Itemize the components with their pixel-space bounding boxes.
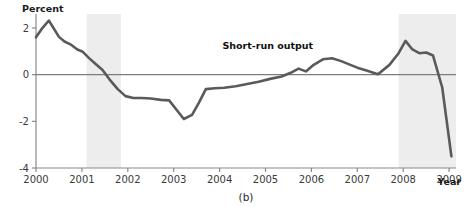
recession-band-2008 <box>399 14 456 168</box>
x-tick-label: 2006 <box>299 174 324 185</box>
x-tick-label: 2005 <box>253 174 278 185</box>
x-tick-label: 2002 <box>115 174 140 185</box>
panel-caption: (b) <box>239 191 254 203</box>
x-tick-label: 2007 <box>345 174 370 185</box>
y-axis-title: Percent <box>22 3 64 14</box>
series-inline-label: Short-run output <box>222 40 313 51</box>
y-tick-label: -2 <box>19 116 29 127</box>
y-tick-label: 0 <box>23 69 29 80</box>
x-tick-label: 2004 <box>207 174 232 185</box>
short-run-output-line-chart: 20-2-42000200120022003200420052006200720… <box>0 0 464 206</box>
shaded-bands-layer <box>86 14 456 168</box>
x-tick-label: 2000 <box>23 174 48 185</box>
y-tick-label: 2 <box>23 23 29 34</box>
x-axis-title: Year <box>436 176 461 187</box>
x-tick-label: 2008 <box>390 174 415 185</box>
recession-band-2001 <box>86 14 120 168</box>
chart-figure: 20-2-42000200120022003200420052006200720… <box>0 0 464 206</box>
x-tick-label: 2001 <box>69 174 94 185</box>
x-tick-label: 2003 <box>161 174 186 185</box>
y-tick-label: -4 <box>19 163 29 174</box>
